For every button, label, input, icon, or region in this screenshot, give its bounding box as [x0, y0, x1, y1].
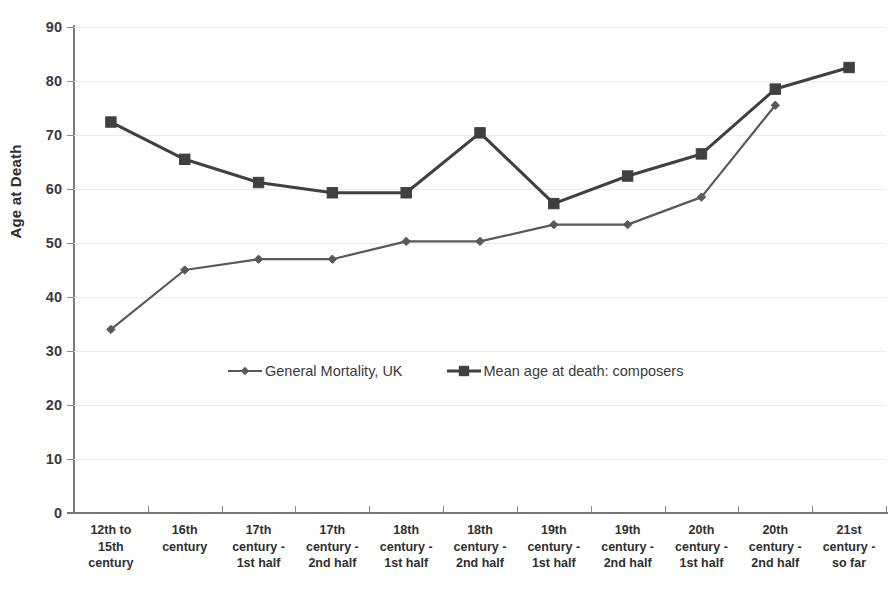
- plot-area: [74, 27, 886, 513]
- plot-svg: [74, 27, 886, 513]
- x-axis-category-label-line: 2nd half: [443, 555, 517, 572]
- y-tick-label: 10: [26, 451, 62, 467]
- x-axis-category-label-line: 16th: [148, 522, 222, 539]
- x-axis-category-label-line: century -: [443, 539, 517, 556]
- data-point-marker: [770, 84, 780, 94]
- x-axis-category-label: 20thcentury -1st half: [665, 522, 739, 572]
- x-axis-category-label-line: so far: [812, 555, 886, 572]
- data-point-marker: [696, 149, 706, 159]
- x-axis-category-label-line: 15th: [74, 539, 148, 556]
- x-axis-category-label-line: century -: [738, 539, 812, 556]
- x-axis-category-label-line: 19th: [591, 522, 665, 539]
- x-axis-category-label-line: 12th to: [74, 522, 148, 539]
- x-axis-category-label-line: 18th: [369, 522, 443, 539]
- data-point-marker: [401, 188, 411, 198]
- data-point-marker: [253, 177, 263, 187]
- x-axis-category-label-line: century -: [591, 539, 665, 556]
- y-tick-label: 80: [26, 73, 62, 89]
- legend-diamond-marker-icon: [228, 363, 262, 379]
- data-point-marker: [254, 255, 262, 263]
- x-axis-category-label: 20thcentury -2nd half: [738, 522, 812, 572]
- data-point-marker: [622, 171, 632, 181]
- x-axis-category-label-line: 20th: [665, 522, 739, 539]
- y-tick-label: 90: [26, 19, 62, 35]
- x-axis-category-label-line: century -: [517, 539, 591, 556]
- x-axis-category-label-line: century -: [665, 539, 739, 556]
- legend-label: General Mortality, UK: [265, 363, 403, 379]
- data-point-marker: [106, 117, 116, 127]
- x-axis-category-label-line: 1st half: [369, 555, 443, 572]
- data-point-marker: [402, 237, 410, 245]
- legend-entry[interactable]: Mean age at death: composers: [447, 363, 684, 379]
- x-axis-category-label-line: 18th: [443, 522, 517, 539]
- x-axis-category-label-line: 1st half: [222, 555, 296, 572]
- x-axis-category-label-line: century -: [295, 539, 369, 556]
- legend-marker: [241, 367, 249, 375]
- x-axis-category-label-line: century -: [222, 539, 296, 556]
- data-point-marker: [623, 220, 631, 228]
- series-line: [111, 105, 775, 329]
- x-axis-category-label: 18thcentury -2nd half: [443, 522, 517, 572]
- data-point-marker: [475, 128, 485, 138]
- legend-square-marker-icon: [447, 363, 481, 379]
- x-axis-category-label-line: century -: [369, 539, 443, 556]
- y-tick-label: 60: [26, 181, 62, 197]
- line-chart: Age at Death 0102030405060708090 12th to…: [0, 0, 893, 603]
- x-axis-category-label: 19thcentury -1st half: [517, 522, 591, 572]
- y-tick-label: 0: [26, 505, 62, 521]
- data-point-marker: [549, 198, 559, 208]
- x-axis-category-label: 17thcentury -2nd half: [295, 522, 369, 572]
- x-axis-category-label: 17thcentury -1st half: [222, 522, 296, 572]
- x-axis-category-label-line: 21st: [812, 522, 886, 539]
- legend-marker: [458, 366, 468, 376]
- x-axis-category-label: 18thcentury -1st half: [369, 522, 443, 572]
- y-tick-label: 20: [26, 397, 62, 413]
- y-axis-tick-labels: 0102030405060708090: [18, 0, 62, 603]
- x-axis-category-label-line: 1st half: [665, 555, 739, 572]
- y-tick-label: 30: [26, 343, 62, 359]
- x-axis-category-label: 16thcentury: [148, 522, 222, 555]
- chart-legend: General Mortality, UKMean age at death: …: [228, 363, 683, 379]
- x-axis-category-label-line: 19th: [517, 522, 591, 539]
- x-axis-category-label: 21stcentury -so far: [812, 522, 886, 572]
- x-axis-category-label-line: 20th: [738, 522, 812, 539]
- x-axis-category-label-line: century: [74, 555, 148, 572]
- x-axis-category-label-line: century -: [812, 539, 886, 556]
- x-axis-category-label-line: 17th: [222, 522, 296, 539]
- y-tick-label: 40: [26, 289, 62, 305]
- y-tick-label: 70: [26, 127, 62, 143]
- x-axis-category-label-line: 2nd half: [738, 555, 812, 572]
- x-axis-category-label-line: 2nd half: [295, 555, 369, 572]
- data-point-marker: [550, 220, 558, 228]
- data-point-marker: [180, 154, 190, 164]
- data-point-marker: [476, 237, 484, 245]
- y-tick-label: 50: [26, 235, 62, 251]
- legend-entry[interactable]: General Mortality, UK: [228, 363, 403, 379]
- x-axis-category-label: 12th to15thcentury: [74, 522, 148, 572]
- data-point-marker: [328, 255, 336, 263]
- x-axis-category-label-line: 2nd half: [591, 555, 665, 572]
- legend-label: Mean age at death: composers: [484, 363, 684, 379]
- data-point-marker: [327, 188, 337, 198]
- x-axis-category-label-line: 1st half: [517, 555, 591, 572]
- x-axis-category-label-line: century: [148, 539, 222, 556]
- x-axis-category-label: 19thcentury -2nd half: [591, 522, 665, 572]
- data-point-marker: [844, 62, 854, 72]
- x-axis-category-label-line: 17th: [295, 522, 369, 539]
